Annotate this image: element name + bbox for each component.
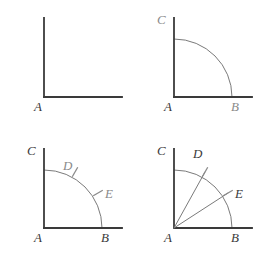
panel-3-label-b: B: [101, 231, 109, 244]
panel-4-label-e: E: [235, 187, 243, 200]
arc-CB: [44, 170, 102, 228]
panel-2-canvas: [130, 0, 260, 131]
panel-3-label-e: E: [105, 187, 113, 200]
ray-AD: [174, 172, 205, 228]
panel-4-label-d: D: [193, 147, 202, 160]
arc-CB: [174, 39, 232, 97]
construction-figure: ACABCDEABCDEAB: [0, 0, 260, 263]
panel-2: CAB: [130, 0, 260, 131]
panel-1-label-a: A: [34, 100, 42, 113]
panel-3-label-a: A: [34, 231, 42, 244]
panel-2-label-b: B: [231, 100, 239, 113]
panel-4: CDEAB: [130, 131, 260, 262]
tick-E: [223, 190, 233, 196]
ray-AE: [174, 193, 228, 228]
panel-3: CDEAB: [0, 131, 130, 262]
panel-1-canvas: [0, 0, 130, 131]
panel-2-label-a: A: [164, 100, 172, 113]
panel-2-label-c: C: [157, 13, 166, 26]
panel-1: A: [0, 0, 130, 131]
panel-4-label-a: A: [164, 231, 172, 244]
panel-4-label-c: C: [157, 144, 166, 157]
tick-D: [202, 167, 208, 177]
tick-D: [72, 167, 78, 177]
arc-CB: [174, 170, 232, 228]
panel-3-label-c: C: [27, 144, 36, 157]
panel-4-label-b: B: [231, 231, 239, 244]
panel-3-label-d: D: [63, 159, 72, 172]
tick-E: [93, 190, 103, 196]
